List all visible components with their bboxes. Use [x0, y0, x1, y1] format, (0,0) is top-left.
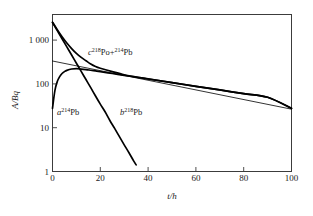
x-axis-title: t/h: [167, 191, 177, 201]
curve-c-mass1: 218: [92, 47, 101, 53]
y-axis-tick-labels: 1 10 100 1 000: [29, 35, 50, 176]
x-axis-tick-labels: 0 20 40 60 80 100: [50, 173, 299, 183]
y-tick-label-100: 100: [36, 79, 50, 89]
y-tick-label-1: 1: [45, 167, 50, 177]
x-axis-ticks: [53, 167, 292, 172]
curve-label-b-pb218: b218Pb: [120, 107, 142, 118]
curve-a-element: Pb: [70, 107, 79, 117]
curve-label-c-po218-pb214: c218Po+214Pb: [88, 47, 133, 58]
curve-c-element2: Pb: [124, 47, 133, 57]
chart-figure: 1 10 100 1 000 A/Bq 0 20 40 60 80 100 t/…: [0, 0, 313, 216]
series-a-214pb: [53, 69, 292, 109]
curve-a-mass: 214: [61, 107, 70, 113]
semilog-decay-plot: 1 10 100 1 000 A/Bq 0 20 40 60 80 100 t/…: [0, 0, 313, 216]
x-tick-label-60: 60: [191, 173, 201, 183]
y-axis-title: A/Bq: [10, 91, 20, 110]
x-tick-label-20: 20: [96, 173, 106, 183]
x-tick-label-80: 80: [239, 173, 249, 183]
x-tick-label-100: 100: [285, 173, 299, 183]
curve-c-mass2: 214: [115, 47, 124, 53]
x-tick-label-0: 0: [50, 173, 55, 183]
y-tick-label-1000: 1 000: [29, 35, 50, 45]
x-tick-label-40: 40: [144, 173, 154, 183]
curve-b-mass: 218: [124, 107, 133, 113]
series-c-218po-214pb: [53, 22, 292, 108]
data-curves: [53, 22, 292, 165]
curve-b-element: Pb: [133, 107, 142, 117]
plot-frame: [53, 15, 292, 172]
curve-label-a-pb214: a214Pb: [57, 107, 79, 118]
series-b-218pb: [53, 22, 137, 164]
curve-c-element1: Po: [101, 47, 110, 57]
y-tick-label-10: 10: [40, 123, 50, 133]
